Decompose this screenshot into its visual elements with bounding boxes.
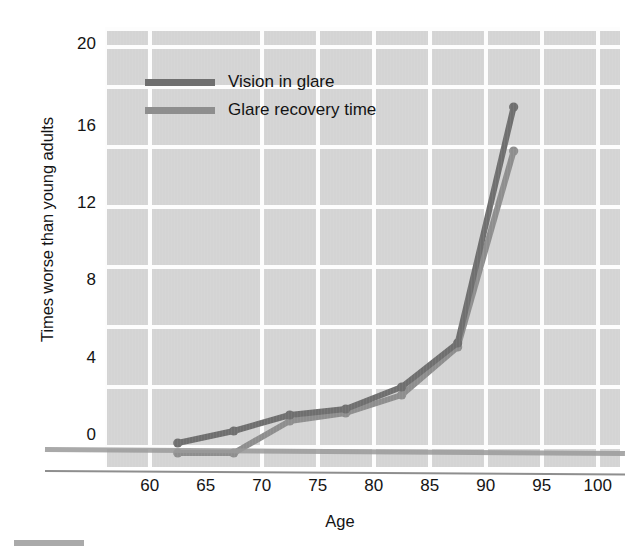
x-tick-label-75: 75: [288, 477, 348, 494]
x-tick-label-100: 100: [568, 477, 626, 494]
y-tick-label-20: 20: [56, 35, 96, 52]
legend-item-glare-recovery-time: Glare recovery time: [145, 96, 395, 124]
legend: Vision in glare Glare recovery time: [145, 68, 395, 124]
x-tick-label-60: 60: [120, 477, 180, 494]
line-chart: Times worse than young adults 20 16 12 8…: [0, 0, 626, 547]
data-point: [397, 382, 406, 391]
x-tick-label-90: 90: [456, 477, 516, 494]
scan-smudge-artifact: [14, 540, 84, 546]
data-point: [229, 426, 238, 435]
y-tick-label-0: 0: [56, 426, 96, 443]
x-tick-label-65: 65: [176, 477, 236, 494]
data-point: [173, 438, 182, 447]
data-point: [285, 410, 294, 419]
y-tick-label-4: 4: [56, 349, 96, 366]
x-tick-label-85: 85: [400, 477, 460, 494]
legend-label-vision-in-glare: Vision in glare: [228, 72, 334, 92]
x-tick-label-80: 80: [344, 477, 404, 494]
data-point: [341, 404, 350, 413]
x-tick-label-95: 95: [512, 477, 572, 494]
data-point: [509, 146, 518, 155]
y-axis-title: Times worse than young adults: [38, 20, 57, 440]
data-point: [397, 390, 406, 399]
legend-item-vision-in-glare: Vision in glare: [145, 68, 395, 96]
y-tick-label-16: 16: [56, 117, 96, 134]
x-axis-title: Age: [55, 512, 625, 531]
x-tick-label-70: 70: [232, 477, 292, 494]
legend-label-glare-recovery-time: Glare recovery time: [228, 100, 376, 120]
x-axis-baseline: [45, 470, 625, 476]
legend-swatch-glare-recovery-time: [145, 107, 215, 114]
series-line-vision-in-glare: [178, 107, 514, 443]
legend-swatch-vision-in-glare: [145, 79, 215, 86]
y-tick-label-12: 12: [56, 194, 96, 211]
data-point: [453, 338, 462, 347]
data-point: [509, 102, 518, 111]
y-tick-label-8: 8: [56, 271, 96, 288]
